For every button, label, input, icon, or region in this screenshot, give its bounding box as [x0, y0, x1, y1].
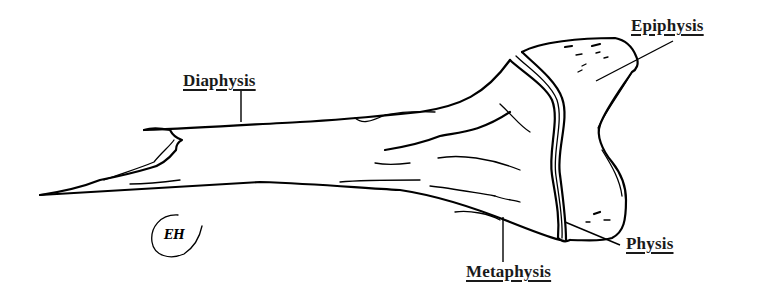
epiphysis-leader — [596, 41, 673, 81]
bone-shaft — [40, 60, 560, 240]
physis-plate — [510, 52, 570, 241]
label-epiphysis: Epiphysis — [631, 16, 704, 36]
label-metaphysis: Metaphysis — [466, 262, 551, 282]
label-diaphysis: Diaphysis — [183, 71, 256, 91]
artist-signature: EH — [164, 228, 184, 242]
label-physis: Physis — [626, 234, 674, 254]
bone-diagram — [0, 0, 760, 301]
physis-leader — [565, 222, 620, 245]
